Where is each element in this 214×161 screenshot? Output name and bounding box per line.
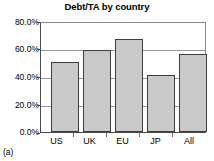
- bar-jp: [147, 75, 175, 132]
- y-axis-tick-label-60: 60.0%: [0, 45, 39, 54]
- bar-all: [179, 54, 207, 132]
- x-axis-label-all: All: [172, 136, 206, 147]
- plot-area: [40, 22, 206, 133]
- bar-us: [51, 62, 79, 132]
- y-axis-tick-label-0: 0.0%: [0, 128, 39, 137]
- y-axis-tick-label-20: 20.0%: [0, 101, 39, 110]
- x-axis-label-eu: EU: [106, 136, 139, 147]
- y-axis-tick-label-80: 80.0%: [0, 18, 39, 27]
- x-axis-label-us: US: [40, 136, 73, 147]
- figure-panel-a: Debt/TA by country 80.0% 60.0% 40.0% 20.…: [0, 0, 214, 161]
- x-axis-label-jp: JP: [139, 136, 172, 147]
- figure-caption: (a): [3, 147, 13, 157]
- bar-uk: [83, 50, 111, 132]
- y-axis-tick-mark-0: [37, 133, 40, 134]
- chart-title: Debt/TA by country: [0, 1, 214, 12]
- x-axis-label-uk: UK: [73, 136, 106, 147]
- y-axis-tick-label-40: 40.0%: [0, 73, 39, 82]
- bar-eu: [115, 39, 143, 132]
